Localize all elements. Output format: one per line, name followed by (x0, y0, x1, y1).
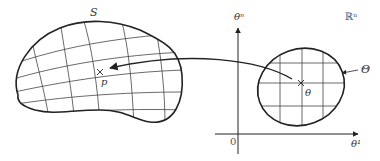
region-label: Θ (361, 63, 370, 76)
region-outline (247, 36, 356, 138)
region-pointer-arrow (342, 70, 358, 73)
origin-label: 0 (230, 136, 236, 147)
region-grid (250, 40, 350, 130)
diagram-canvas: S p θⁿ θ¹ 0 ℝⁿ θ Θ (0, 0, 380, 161)
point-p-label: p (101, 76, 108, 87)
x-axis-label: θ¹ (351, 138, 361, 149)
space-label: ℝⁿ (345, 11, 358, 22)
point-theta-label: θ (305, 87, 311, 98)
y-axis-label: θⁿ (234, 11, 244, 22)
region-theta (247, 36, 356, 138)
manifold-label: S (90, 6, 98, 19)
point-p-marker (97, 69, 103, 75)
